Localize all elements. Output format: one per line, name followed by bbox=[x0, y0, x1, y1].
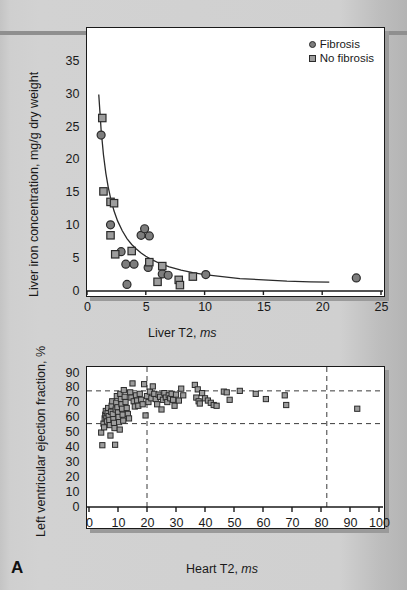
data-point-square bbox=[100, 188, 107, 195]
data-point-square bbox=[128, 247, 135, 254]
chart-liver-ytick-label: 10 bbox=[42, 218, 80, 232]
data-point-square bbox=[263, 396, 268, 401]
square-marker-icon bbox=[309, 55, 316, 62]
data-point-square bbox=[282, 393, 287, 398]
chart-liver-svg bbox=[87, 28, 383, 295]
chart-liver-plot-area bbox=[87, 28, 384, 296]
circle-marker-icon bbox=[309, 41, 316, 48]
chart-liver-xaxis-text: Liver T2, bbox=[148, 326, 196, 340]
chart-liver-xtick-label: 5 bbox=[126, 300, 166, 314]
chart-liver-yaxis-text: Liver iron concentration, bbox=[27, 164, 41, 297]
data-point-square bbox=[200, 391, 205, 396]
data-point-square bbox=[154, 278, 161, 285]
data-point-circle bbox=[107, 221, 115, 229]
chart-liver-xtick-label: 15 bbox=[244, 300, 284, 314]
chart-heart-xaxis-unit: ms bbox=[241, 562, 258, 576]
legend-label-no-fibrosis: No fibrosis bbox=[320, 51, 374, 65]
data-point-circle bbox=[141, 225, 149, 233]
chart-liver-ytick-label: 5 bbox=[42, 251, 80, 265]
chart-liver-ytick-label: 25 bbox=[42, 120, 80, 134]
chart-heart-xaxis-text: Heart T2, bbox=[186, 562, 238, 576]
data-point-square bbox=[121, 388, 126, 393]
chart-liver-xaxis-unit: ms bbox=[200, 326, 217, 340]
chart-liver-xtick-label: 0 bbox=[68, 300, 108, 314]
data-point-square bbox=[124, 405, 129, 410]
data-point-square bbox=[189, 273, 196, 280]
data-point-square bbox=[159, 262, 166, 269]
chart-liver-xtick-label: 20 bbox=[303, 300, 343, 314]
data-point-square bbox=[227, 397, 232, 402]
figure-page: Fibrosis No fibrosis 05101520253035 0510… bbox=[0, 0, 407, 598]
page-bottom-edge bbox=[0, 590, 407, 598]
data-point-square bbox=[120, 412, 125, 417]
chart-heart-svg bbox=[87, 367, 383, 527]
data-point-square bbox=[179, 386, 184, 391]
chart-liver-ytick-label: 35 bbox=[42, 54, 80, 68]
data-point-square bbox=[111, 420, 116, 425]
chart-liver-ytick-label: 20 bbox=[42, 152, 80, 166]
chart-liver-legend: Fibrosis No fibrosis bbox=[309, 37, 374, 65]
chart-liver-yaxis-unit: mg/g dry weight bbox=[27, 72, 41, 160]
chart-liver-yaxis-title: Liver iron concentration, mg/g dry weigh… bbox=[27, 72, 41, 297]
chart-liver-xtick-label: 25 bbox=[362, 300, 402, 314]
data-point-square bbox=[155, 402, 160, 407]
chart-liver-xaxis-title: Liver T2, ms bbox=[148, 326, 217, 340]
data-point-square bbox=[140, 402, 145, 407]
legend-item-fibrosis: Fibrosis bbox=[309, 37, 374, 51]
chart-heart-xaxis-title: Heart T2, ms bbox=[186, 562, 258, 576]
data-point-square bbox=[197, 401, 202, 406]
data-point-square bbox=[176, 281, 183, 288]
data-point-square bbox=[143, 413, 148, 418]
data-point-circle bbox=[164, 271, 172, 279]
data-point-square bbox=[101, 425, 106, 430]
data-point-square bbox=[142, 382, 147, 387]
data-point-circle bbox=[145, 232, 153, 240]
data-point-square bbox=[110, 199, 117, 206]
chart-heart-yaxis-title: Left ventricular ejection fraction, % bbox=[34, 346, 48, 537]
data-point-square bbox=[122, 394, 127, 399]
data-point-square bbox=[172, 403, 177, 408]
chart-liver-xtick-label: 10 bbox=[185, 300, 225, 314]
chart-liver-ytick-label: 0 bbox=[42, 284, 80, 298]
chart-heart-plot-area bbox=[87, 367, 384, 528]
panel-letter-label: A bbox=[11, 558, 23, 578]
data-point-square bbox=[355, 406, 360, 411]
legend-label-fibrosis: Fibrosis bbox=[320, 37, 360, 51]
data-point-square bbox=[173, 392, 178, 397]
data-point-circle bbox=[352, 274, 360, 282]
data-point-square bbox=[108, 433, 113, 438]
chart-liver-ytick-label: 15 bbox=[42, 185, 80, 199]
data-point-square bbox=[181, 393, 186, 398]
data-point-square bbox=[112, 425, 117, 430]
data-point-square bbox=[214, 403, 219, 408]
data-point-square bbox=[171, 397, 176, 402]
data-point-square bbox=[100, 443, 105, 448]
chart-liver-panel: Fibrosis No fibrosis bbox=[86, 27, 385, 297]
chart-heart-xtick-label: 100 bbox=[360, 516, 400, 530]
data-point-square bbox=[113, 442, 118, 447]
data-point-square bbox=[126, 416, 131, 421]
data-point-square bbox=[99, 430, 104, 435]
chart-heart-panel bbox=[86, 366, 385, 529]
data-point-square bbox=[137, 391, 142, 396]
data-point-square bbox=[159, 407, 164, 412]
data-point-square bbox=[123, 399, 128, 404]
data-point-square bbox=[224, 390, 229, 395]
data-point-square bbox=[237, 388, 242, 393]
data-point-square bbox=[253, 391, 258, 396]
chart-heart-yaxis-text: Left ventricular ejection fraction, % bbox=[34, 346, 48, 537]
data-point-circle bbox=[123, 280, 131, 288]
data-point-square bbox=[112, 251, 119, 258]
chart-liver-ytick-label: 30 bbox=[42, 87, 80, 101]
data-point-square bbox=[130, 381, 135, 386]
data-point-square bbox=[107, 232, 114, 239]
legend-item-no-fibrosis: No fibrosis bbox=[309, 51, 374, 65]
data-point-square bbox=[128, 390, 133, 395]
data-point-square bbox=[99, 114, 106, 121]
data-point-circle bbox=[202, 271, 210, 279]
data-point-square bbox=[284, 402, 289, 407]
data-point-circle bbox=[97, 131, 105, 139]
data-point-square bbox=[150, 384, 155, 389]
data-point-square bbox=[121, 418, 126, 423]
data-point-square bbox=[117, 427, 122, 432]
